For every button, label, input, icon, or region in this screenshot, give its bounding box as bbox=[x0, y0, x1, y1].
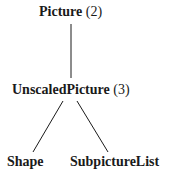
node-picture-count: (2) bbox=[86, 4, 102, 19]
node-shape-name: Shape bbox=[7, 154, 44, 169]
edge-unscaledpicture-to-shape bbox=[33, 101, 63, 152]
node-picture: Picture (2) bbox=[39, 4, 102, 20]
node-picture-name: Picture bbox=[39, 4, 82, 19]
edge-unscaledpicture-to-subpicturelist bbox=[77, 101, 108, 152]
node-unscaledpicture: UnscaledPicture (3) bbox=[12, 82, 130, 98]
node-unscaledpicture-name: UnscaledPicture bbox=[12, 82, 110, 97]
node-unscaledpicture-count: (3) bbox=[113, 82, 129, 97]
node-shape: Shape bbox=[7, 154, 44, 170]
node-subpicturelist-name: SubpictureList bbox=[70, 154, 159, 169]
node-subpicturelist: SubpictureList bbox=[70, 154, 159, 170]
